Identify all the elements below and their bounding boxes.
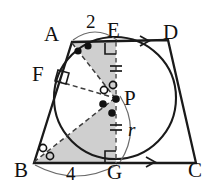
angle-mark-b-1 (39, 144, 46, 151)
label-length-ae: 2 (86, 12, 96, 31)
label-length-bg: 4 (66, 164, 76, 183)
dimension-arc-bg (35, 165, 117, 176)
angle-mark-p-lower-1 (99, 100, 107, 108)
label-vertex-b: B (14, 160, 28, 181)
geometry-figure: A 2 E D F P r B 4 G C (0, 0, 218, 192)
angle-mark-a-2 (84, 42, 91, 49)
label-vertex-d: D (163, 22, 178, 43)
angle-mark-a-1 (74, 47, 81, 54)
label-point-e: E (107, 20, 120, 41)
label-radius-r: r (128, 120, 135, 139)
label-point-g: G (107, 162, 122, 183)
label-vertex-a: A (44, 24, 59, 45)
angle-mark-p-upper-1 (100, 86, 107, 93)
angle-mark-p-lower-2 (108, 109, 116, 117)
label-point-p: P (124, 88, 136, 109)
label-point-f: F (32, 64, 44, 85)
label-vertex-c: C (188, 160, 202, 181)
point-p-dot (112, 95, 120, 103)
